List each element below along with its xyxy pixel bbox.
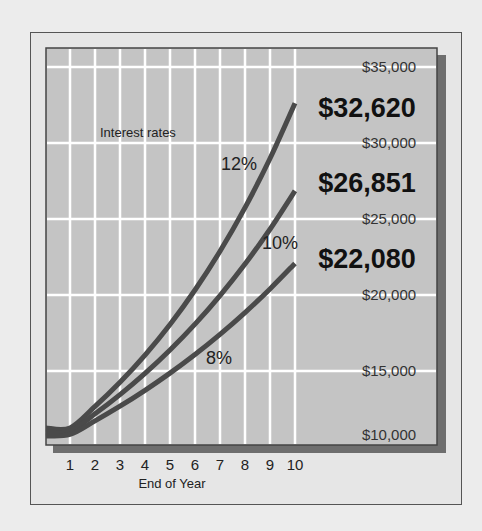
x-tick-label: 2 — [91, 456, 99, 473]
x-tick-label: 3 — [116, 456, 124, 473]
series-rate-label: 12% — [221, 154, 257, 174]
x-axis-label: End of Year — [138, 476, 206, 491]
y-tick-label: $30,000 — [362, 134, 416, 151]
y-tick-label: $20,000 — [362, 286, 416, 303]
y-tick-label: $35,000 — [362, 58, 416, 75]
end-value-label: $26,851 — [318, 168, 416, 198]
x-tick-label: 6 — [191, 456, 199, 473]
x-tick-label: 7 — [216, 456, 224, 473]
compound-interest-chart: $10,000$15,000$20,000$25,000$30,000$35,0… — [0, 0, 482, 531]
end-value-label: $32,620 — [318, 93, 416, 123]
interest-rates-annotation: Interest rates — [100, 125, 176, 140]
series-rate-label: 8% — [206, 348, 232, 368]
y-tick-label: $15,000 — [362, 362, 416, 379]
x-tick-label: 10 — [287, 456, 304, 473]
x-tick-label: 4 — [141, 456, 149, 473]
series-rate-label: 10% — [262, 233, 298, 253]
x-tick-label: 8 — [241, 456, 249, 473]
end-value-label: $22,080 — [318, 244, 416, 274]
y-tick-label: $10,000 — [362, 426, 416, 443]
x-tick-label: 5 — [166, 456, 174, 473]
y-tick-label: $25,000 — [362, 210, 416, 227]
x-tick-label: 1 — [66, 456, 74, 473]
x-tick-label: 9 — [266, 456, 274, 473]
